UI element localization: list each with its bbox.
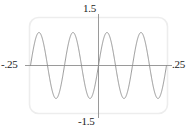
figure-background	[0, 0, 191, 137]
y-axis-max-label: 1.5	[83, 3, 96, 14]
plot-canvas	[0, 0, 191, 137]
x-axis-min-label: -.25	[1, 59, 18, 70]
sine-plot-figure: 1.5 -1.5 -.25 .25	[0, 0, 191, 137]
y-axis-min-label: -1.5	[78, 116, 95, 127]
x-axis-max-label: .25	[172, 59, 185, 70]
